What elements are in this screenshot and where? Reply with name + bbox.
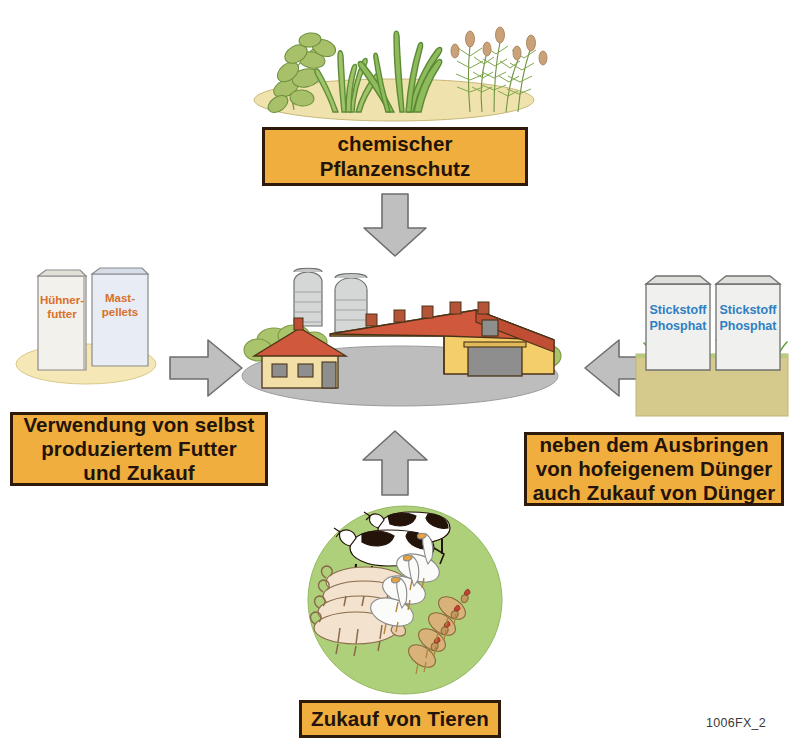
callout-text: chemischer Pflanzenschutz bbox=[265, 132, 525, 180]
farmstead-illustration bbox=[232, 258, 562, 410]
fertilizer-bag-2-label-line2: Phosphat bbox=[720, 319, 778, 333]
callout-own-feed-and-purchase: Verwendung von selbst produziertem Futte… bbox=[10, 412, 268, 486]
diagram-canvas: chemischer Pflanzenschutz Hühner- futter… bbox=[0, 0, 790, 745]
crop-plants-illustration bbox=[238, 12, 546, 124]
feed-bag-2-label-line2: pellets bbox=[102, 306, 138, 318]
callout-purchase-of-animals: Zukauf von Tieren bbox=[299, 700, 501, 738]
fertilizer-bag-2-label-line1: Stickstoff bbox=[720, 303, 778, 317]
arrow-animals-to-farm bbox=[358, 428, 432, 498]
feed-bag-1-label-line1: Hühner- bbox=[40, 294, 84, 306]
fertilizer-bag-1-label-line2: Phosphat bbox=[650, 319, 708, 333]
feed-bag-1-label-line2: futter bbox=[47, 308, 77, 320]
fertilizer-sacks-illustration: Stickstoff Phosphat Stickstoff Phosphat bbox=[636, 262, 788, 422]
arrow-pesticide-to-farm bbox=[358, 192, 432, 258]
callout-manure-and-purchased-fertilizer: neben dem Ausbringen von hofeigenem Düng… bbox=[524, 432, 784, 506]
callout-text: Verwendung von selbst produziertem Futte… bbox=[13, 413, 265, 486]
callout-text: neben dem Ausbringen von hofeigenem Düng… bbox=[527, 433, 781, 506]
livestock-illustration bbox=[292, 496, 518, 694]
feed-sacks-illustration: Hühner- futter Mast- pellets bbox=[8, 258, 178, 390]
fertilizer-bag-1-label-line1: Stickstoff bbox=[650, 303, 708, 317]
figure-code-label: 1006FX_2 bbox=[706, 716, 766, 730]
callout-text: Zukauf von Tieren bbox=[302, 707, 498, 731]
feed-bag-2-label-line1: Mast- bbox=[105, 292, 135, 304]
callout-chemical-plant-protection: chemischer Pflanzenschutz bbox=[262, 127, 528, 186]
